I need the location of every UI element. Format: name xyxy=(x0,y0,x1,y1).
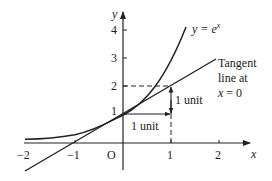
exp-curve-path xyxy=(25,27,186,139)
graph-canvas: y x O −2 −1 1 2 4 3 2 1 y = ex Tangent l… xyxy=(0,0,272,181)
y-tick-label-4: 4 xyxy=(111,23,117,37)
x-tick-label-neg2: −2 xyxy=(17,148,30,162)
horizontal-unit-label: 1 unit xyxy=(131,119,159,133)
curve-label: y = ex xyxy=(191,21,221,36)
y-tick-label-1: 1 xyxy=(111,104,117,118)
x-tick-label-1: 1 xyxy=(167,148,173,162)
y-axis-label: y xyxy=(111,7,118,21)
y-tick-label-3: 3 xyxy=(111,51,117,65)
vertical-unit-label: 1 unit xyxy=(175,93,203,107)
x-tick-label-neg1: −1 xyxy=(67,148,80,162)
tangent-label-line3: x = 0 xyxy=(217,86,242,100)
x-axis-label: x xyxy=(250,147,257,161)
x-tick-label-2: 2 xyxy=(215,148,221,162)
tangent-label-line2: line at xyxy=(218,71,248,85)
tangent-line xyxy=(25,59,216,171)
origin-label: O xyxy=(107,148,116,162)
y-tick-label-2: 2 xyxy=(111,79,117,93)
tangent-label-line1: Tangent xyxy=(218,56,257,70)
